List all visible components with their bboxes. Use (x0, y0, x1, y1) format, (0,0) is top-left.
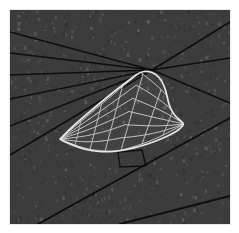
3d-surface-mesh-canvas (0, 0, 239, 233)
figure-root (0, 0, 239, 233)
